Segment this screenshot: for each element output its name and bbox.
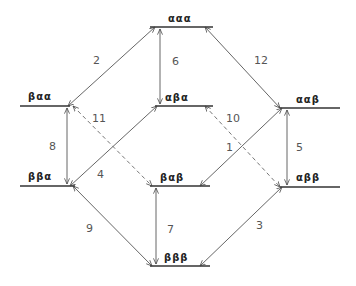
double-arrow [200, 187, 282, 266]
state-label: βαα [28, 91, 52, 102]
double-arrow [70, 106, 157, 186]
transition-number: 5 [296, 141, 303, 154]
state-label: βαβ [160, 172, 184, 183]
transition-number: 2 [93, 54, 100, 67]
energy-level-aaa: ααα [150, 13, 213, 27]
transition-11: 11 [73, 106, 152, 186]
double-arrow [73, 186, 152, 266]
transition-number: 4 [97, 168, 104, 181]
transition-3: 3 [200, 187, 282, 266]
transition-2: 2 [68, 27, 155, 106]
state-label: αβα [165, 92, 189, 103]
transition-number: 3 [256, 219, 263, 232]
transition-number: 11 [92, 112, 106, 125]
double-arrow [205, 27, 280, 108]
transition-number: 7 [167, 223, 174, 236]
energy-level-abb: αββ [280, 172, 340, 187]
transition-1: 1 [200, 108, 282, 186]
state-label: ααβ [296, 94, 320, 105]
energy-level-bbb: βββ [150, 252, 210, 266]
energy-levels: αααβαααβαααβββαβαβαβββββ [20, 13, 340, 266]
transition-number: 9 [86, 222, 93, 235]
energy-level-bab: βαβ [150, 172, 210, 186]
transition-number: 12 [254, 54, 268, 67]
transition-10: 10 [205, 106, 280, 187]
transition-12: 12 [205, 27, 280, 108]
transition-9: 9 [73, 186, 152, 266]
double-arrow [200, 108, 282, 186]
energy-level-diagram: αααβαααβαααβββαβαβαβββββ 123456789101112 [0, 0, 356, 286]
energy-level-aab: ααβ [280, 94, 340, 108]
state-label: ααα [168, 13, 192, 24]
double-arrow-dashed [73, 106, 152, 186]
energy-level-baa: βαα [20, 91, 70, 106]
state-label: αββ [296, 172, 320, 183]
transition-number: 1 [226, 141, 233, 154]
state-label: ββα [28, 171, 52, 182]
double-arrow [68, 27, 155, 106]
transition-number: 8 [49, 140, 56, 153]
state-label: βββ [164, 252, 188, 263]
transition-number: 10 [226, 112, 240, 125]
transition-number: 6 [172, 55, 179, 68]
double-arrow-dashed [205, 106, 280, 187]
transitions: 123456789101112 [49, 27, 303, 266]
transition-4: 4 [70, 106, 157, 186]
energy-level-aba: αβα [155, 92, 213, 106]
